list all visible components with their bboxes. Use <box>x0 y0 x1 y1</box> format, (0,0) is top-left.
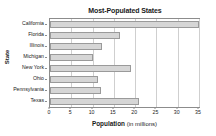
x-tick-label: 0 <box>48 109 51 115</box>
x-tick-label: 25 <box>153 109 159 115</box>
bar[interactable] <box>50 76 98 83</box>
x-tick-label: 30 <box>174 109 180 115</box>
y-tick-mark <box>45 35 47 36</box>
bar-row <box>50 63 131 74</box>
bar-row <box>50 19 199 30</box>
bars-layer <box>50 19 199 107</box>
y-tick-label: California <box>22 18 44 29</box>
y-tick-label: Ohio <box>33 73 44 84</box>
bar-row <box>50 30 120 41</box>
bar[interactable] <box>50 65 131 72</box>
y-tick-mark <box>45 57 47 58</box>
plot-area <box>49 18 200 108</box>
bar[interactable] <box>50 87 101 94</box>
y-tick-mark <box>45 101 47 102</box>
x-tick-label: 5 <box>69 109 72 115</box>
x-tick-label: 15 <box>110 109 116 115</box>
bar-row <box>50 41 102 52</box>
y-tick-label: Florida <box>28 29 44 40</box>
bar-row <box>50 96 139 107</box>
y-axis-tick-labels: CaliforniaFloridaIllinoisMichiganNew Yor… <box>0 18 47 108</box>
y-tick-label: Michigan <box>23 51 44 62</box>
y-tick-label: Illinois <box>30 40 44 51</box>
y-tick-label: New York <box>22 62 44 73</box>
y-tick-mark <box>45 46 47 47</box>
x-axis-title-unit: (in millions) <box>127 121 157 127</box>
y-tick-mark <box>45 90 47 91</box>
x-axis-title-main: Population <box>92 120 125 127</box>
y-tick-label: Pennsylvania <box>13 84 44 95</box>
bar[interactable] <box>50 21 199 28</box>
bar[interactable] <box>50 32 120 39</box>
bar-row <box>50 52 93 63</box>
x-axis-tick-labels: 05101520253035 <box>49 109 200 118</box>
x-tick-label: 20 <box>131 109 137 115</box>
chart-container: Most-Populated States State CaliforniaFl… <box>0 0 216 136</box>
bar[interactable] <box>50 43 102 50</box>
bar-row <box>50 74 98 85</box>
y-tick-mark <box>45 24 47 25</box>
gridline <box>199 19 200 107</box>
y-tick-mark <box>45 68 47 69</box>
y-tick-mark <box>45 79 47 80</box>
bar-row <box>50 85 101 96</box>
chart-title: Most-Populated States <box>49 7 201 14</box>
bar[interactable] <box>50 54 93 61</box>
y-tick-label: Texas <box>30 95 44 106</box>
bar[interactable] <box>50 98 139 105</box>
x-tick-label: 10 <box>89 109 95 115</box>
x-axis-title: Population (in millions) <box>49 120 200 127</box>
x-tick-label: 35 <box>195 109 201 115</box>
